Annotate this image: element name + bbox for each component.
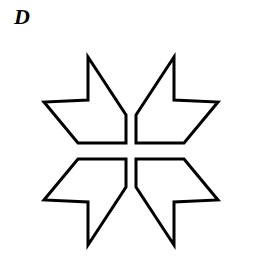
bottom-left-arrow-shape (44, 159, 126, 245)
bottom-right-arrow-shape (136, 159, 218, 245)
top-left-arrow-shape (44, 57, 126, 143)
pinwheel-star-figure (0, 0, 256, 264)
top-right-arrow-shape (136, 57, 218, 143)
figure-panel: D (0, 0, 256, 264)
